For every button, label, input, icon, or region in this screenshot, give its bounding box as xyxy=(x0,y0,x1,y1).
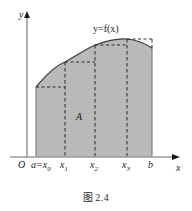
tick-label-x2-sub: 2 xyxy=(94,165,98,173)
y-axis-arrow-icon xyxy=(24,11,30,18)
tick-label-x1: x1 xyxy=(60,160,68,173)
x-axis-label: x xyxy=(176,163,180,173)
tick-label-a: a=x0 xyxy=(31,160,51,173)
tick-label-a-text: a=x xyxy=(31,159,47,170)
tick-label-a-sub: 0 xyxy=(47,165,51,173)
origin-label: O xyxy=(18,160,25,170)
tick-label-x3: x3 xyxy=(122,160,130,173)
tick-label-x2: x2 xyxy=(90,160,98,173)
figure-container: y x O y=f(x) A a=x0 x1 x2 x3 b 图 2.4 xyxy=(0,0,192,211)
shaded-area-under-curve xyxy=(36,39,152,157)
curve-equation-label: y=f(x) xyxy=(93,24,119,34)
figure-caption-number: 2.4 xyxy=(95,192,109,203)
y-axis-label: y xyxy=(19,10,23,20)
figure-caption-word: 图 xyxy=(83,192,93,203)
tick-label-x1-sub: 1 xyxy=(64,165,68,173)
tick-label-b: b xyxy=(148,160,153,170)
x-axis-arrow-icon xyxy=(172,154,180,160)
figure-caption: 图 2.4 xyxy=(0,189,192,204)
tick-label-x3-sub: 3 xyxy=(126,165,130,173)
area-region-label: A xyxy=(76,112,82,122)
